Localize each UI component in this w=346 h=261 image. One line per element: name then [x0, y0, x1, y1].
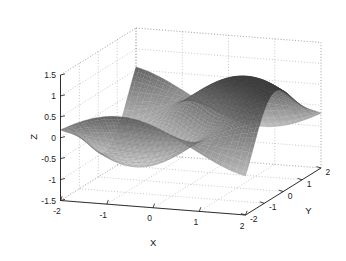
- x-axis-title: X: [150, 238, 156, 248]
- z-axis-title: Z: [29, 134, 39, 140]
- surface-mesh: [61, 67, 322, 176]
- x-tick-label: 1: [193, 218, 198, 227]
- y-tick-label: 2: [326, 168, 331, 177]
- z-tick-label: -0.5: [41, 154, 56, 163]
- x-tick-label: -1: [99, 210, 107, 219]
- surface-plot-svg: [0, 0, 346, 261]
- z-tick-label: 1: [51, 92, 56, 101]
- x-tick-label: -2: [53, 207, 61, 216]
- y-tick-label: 0: [288, 191, 293, 200]
- z-tick-label: -1: [48, 175, 56, 184]
- z-tick-label: -1.5: [41, 196, 56, 205]
- y-tick-label: 1: [307, 180, 312, 189]
- z-tick-label: 1.5: [44, 71, 56, 80]
- z-tick-label: 0.5: [44, 113, 56, 122]
- y-axis-title: Y: [305, 206, 311, 216]
- z-tick-label: 0: [51, 134, 56, 143]
- y-tick-label: -2: [250, 215, 258, 224]
- x-tick-label: 0: [147, 214, 152, 223]
- figure-canvas: 1.5 1 0.5 0 -0.5 -1 -1.5 -2 -1 0 1 2 -2 …: [0, 0, 346, 261]
- y-tick-label: -1: [269, 203, 277, 212]
- x-tick-label: 2: [240, 221, 245, 230]
